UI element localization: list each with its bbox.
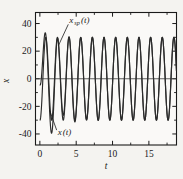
x-axis-title: t: [105, 161, 108, 171]
figure-container: 05101540200-20-40 t x x sp (t) x (t): [0, 0, 183, 179]
x-tick-label: 15: [144, 149, 154, 159]
x-sp-label-subscript: sp: [74, 19, 80, 26]
x-label-main: x: [57, 127, 62, 137]
y-tick-label: -20: [19, 102, 32, 112]
x-annotation: x (t): [57, 127, 72, 137]
y-tick-label: 0: [27, 74, 32, 84]
y-tick-label: -40: [19, 129, 32, 139]
y-tick-label: 40: [22, 19, 32, 29]
y-tick-label: 20: [22, 46, 32, 56]
x-label-tail: (t): [63, 127, 72, 137]
y-axis-title: x: [1, 78, 11, 84]
x-tick-label: 0: [37, 149, 42, 159]
oscillation-plot: 05101540200-20-40 t x x sp (t) x (t): [0, 0, 183, 179]
x-sp-label-tail: (t): [81, 15, 90, 25]
x-tick-label: 10: [108, 149, 118, 159]
x-tick-label: 5: [74, 149, 79, 159]
x-sp-label-main: x: [68, 15, 73, 25]
